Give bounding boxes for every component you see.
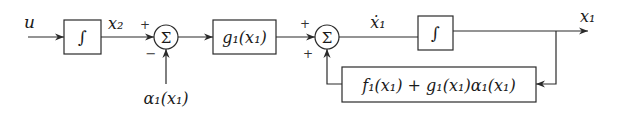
sum1-minus-sign: −: [146, 46, 157, 61]
sum1-plus-sign: +: [140, 18, 150, 32]
sigma-symbol-2: Σ: [322, 29, 333, 47]
input-label-u: u: [24, 12, 35, 32]
integral-symbol-2: ∫: [431, 23, 440, 43]
integral-symbol-1: ∫: [78, 27, 87, 47]
output-label-x1: x₁: [580, 7, 595, 26]
x1dot-label: ẋ₁: [370, 13, 385, 32]
g-block: g₁(x₁): [213, 20, 276, 54]
feedback-block-label: f₁(x₁) + g₁(x₁)α₁(x₁): [361, 76, 516, 95]
integrator-block-2: ∫: [418, 16, 453, 50]
feedback-branch-arrow: [536, 31, 556, 84]
sum2-top-plus-sign: +: [300, 17, 310, 31]
integrator-block-1: ∫: [64, 20, 101, 54]
feedback-to-sum2-arrow: [327, 49, 342, 84]
g-block-label: g₁(x₁): [222, 28, 267, 47]
summing-junction-1: Σ: [154, 25, 178, 49]
summing-junction-2: Σ: [315, 25, 339, 49]
sum2-bottom-plus-sign: +: [303, 47, 313, 61]
sigma-symbol-1: Σ: [161, 29, 172, 47]
x2-label: x₂: [108, 14, 123, 33]
feedback-block: f₁(x₁) + g₁(x₁)α₁(x₁): [342, 67, 536, 102]
block-diagram: u ∫ x₂ Σ + − α₁(x₁) g₁(x₁) Σ + + ẋ₁ ∫ x₁: [0, 0, 620, 120]
alpha-label: α₁(x₁): [143, 89, 188, 108]
